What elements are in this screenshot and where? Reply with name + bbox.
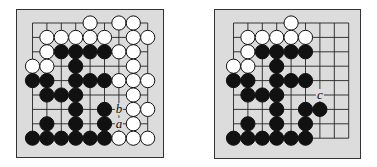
- white-stone: [40, 45, 54, 59]
- black-stone: [40, 131, 54, 145]
- white-stone: [284, 30, 298, 44]
- white-stone: [112, 131, 126, 145]
- black-stone: [255, 88, 269, 102]
- black-stone: [69, 102, 83, 116]
- black-stone: [69, 117, 83, 131]
- white-stone: [126, 102, 140, 116]
- white-stone: [126, 74, 140, 88]
- black-stone: [97, 131, 111, 145]
- white-stone: [126, 88, 140, 102]
- black-stone: [54, 131, 68, 145]
- white-stone: [112, 45, 126, 59]
- white-stone: [141, 30, 155, 44]
- black-stone: [241, 117, 255, 131]
- black-stone: [69, 59, 83, 73]
- black-stone: [284, 74, 298, 88]
- black-stone: [97, 74, 111, 88]
- black-stone: [40, 117, 54, 131]
- black-stone: [270, 74, 284, 88]
- go-board-left: ba: [16, 9, 164, 158]
- black-stone: [226, 74, 240, 88]
- black-stone: [40, 74, 54, 88]
- black-stone: [270, 131, 284, 145]
- black-stone: [54, 88, 68, 102]
- black-stone: [255, 131, 269, 145]
- black-stone: [270, 59, 284, 73]
- black-stone: [270, 102, 284, 116]
- black-stone: [69, 45, 83, 59]
- white-stone: [284, 16, 298, 30]
- white-stone: [40, 59, 54, 73]
- white-stone: [83, 30, 97, 44]
- white-stone: [97, 30, 111, 44]
- black-stone: [284, 131, 298, 145]
- black-stone: [298, 102, 312, 116]
- black-stone: [241, 131, 255, 145]
- white-stone: [226, 59, 240, 73]
- white-stone: [112, 74, 126, 88]
- white-stone: [126, 131, 140, 145]
- black-stone: [270, 88, 284, 102]
- black-stone: [97, 45, 111, 59]
- white-stone: [241, 59, 255, 73]
- black-stone: [97, 102, 111, 116]
- white-stone: [69, 30, 83, 44]
- white-stone: [126, 30, 140, 44]
- black-stone: [40, 88, 54, 102]
- black-stone: [270, 117, 284, 131]
- black-stone: [226, 131, 240, 145]
- black-stone: [313, 102, 327, 116]
- black-stone: [83, 74, 97, 88]
- point-label-b: b: [116, 101, 123, 116]
- white-stone: [126, 16, 140, 30]
- go-board-right: c: [214, 9, 361, 159]
- white-stone: [270, 30, 284, 44]
- white-stone: [126, 59, 140, 73]
- black-stone: [284, 45, 298, 59]
- white-stone: [241, 45, 255, 59]
- black-stone: [97, 117, 111, 131]
- black-stone: [69, 74, 83, 88]
- black-stone: [83, 131, 97, 145]
- white-stone: [255, 30, 269, 44]
- white-stone: [126, 45, 140, 59]
- black-stone: [270, 45, 284, 59]
- white-stone: [54, 30, 68, 44]
- black-stone: [25, 74, 39, 88]
- black-stone: [241, 74, 255, 88]
- white-stone: [112, 16, 126, 30]
- white-stone: [126, 117, 140, 131]
- point-label-a: a: [116, 116, 123, 131]
- white-stone: [40, 30, 54, 44]
- black-stone: [69, 131, 83, 145]
- black-stone: [241, 88, 255, 102]
- white-stone: [25, 59, 39, 73]
- white-stone: [141, 131, 155, 145]
- black-stone: [298, 74, 312, 88]
- black-stone: [54, 45, 68, 59]
- black-stone: [298, 131, 312, 145]
- white-stone: [141, 74, 155, 88]
- point-label-c: c: [317, 87, 323, 102]
- white-stone: [83, 16, 97, 30]
- black-stone: [25, 131, 39, 145]
- black-stone: [83, 45, 97, 59]
- black-stone: [298, 45, 312, 59]
- black-stone: [69, 88, 83, 102]
- white-stone: [298, 30, 312, 44]
- white-stone: [241, 30, 255, 44]
- white-stone: [141, 102, 155, 116]
- black-stone: [255, 45, 269, 59]
- black-stone: [298, 117, 312, 131]
